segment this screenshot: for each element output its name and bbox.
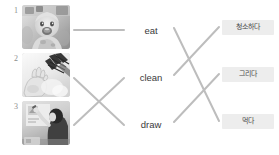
right-connector-group (174, 27, 219, 122)
hands-cleaning-photo[interactable] (22, 53, 70, 97)
translation-chip-meokda[interactable]: 먹다 (222, 114, 274, 129)
translation-chip-geurida[interactable]: 그리다 (222, 67, 274, 82)
left-connector-group (74, 30, 124, 125)
child-drawing-photo[interactable] (22, 101, 70, 145)
translation-label-geurida: 그리다 (239, 71, 256, 78)
matching-worksheet: 1 (0, 0, 279, 155)
picture-number-2: 2 (14, 55, 18, 63)
picture-number-3: 3 (14, 103, 18, 111)
picture-number-1: 1 (14, 7, 18, 15)
translation-chip-cheongsohada[interactable]: 청소하다 (222, 20, 274, 35)
link-picture3-clean[interactable] (74, 78, 124, 125)
link-picture2-draw[interactable] (74, 78, 124, 125)
word-clean[interactable]: clean (128, 73, 174, 83)
word-eat[interactable]: eat (128, 26, 174, 36)
translation-label-meokda: 먹다 (242, 118, 254, 125)
link-clean-cheongso[interactable] (174, 27, 219, 75)
baby-eating-photo[interactable] (22, 5, 70, 49)
link-eat-meokda[interactable] (174, 28, 219, 121)
link-draw-geurida[interactable] (174, 74, 219, 122)
translation-label-cheongsohada: 청소하다 (236, 24, 259, 31)
word-draw[interactable]: draw (128, 120, 174, 130)
